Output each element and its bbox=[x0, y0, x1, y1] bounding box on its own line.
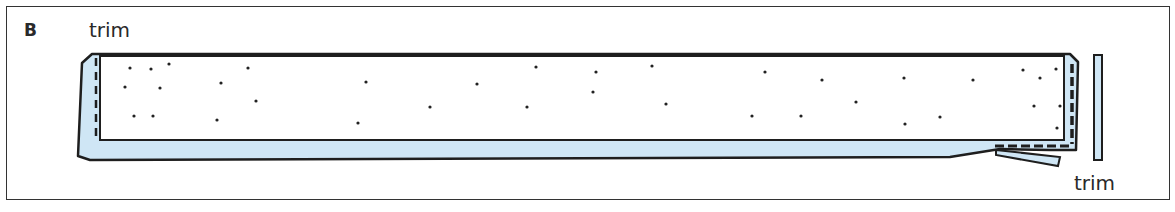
fabric-dot bbox=[167, 62, 170, 65]
fabric-dot bbox=[763, 70, 766, 73]
fabric-dot bbox=[158, 86, 161, 89]
fabric-dot bbox=[1055, 126, 1058, 129]
fabric-dot bbox=[1021, 68, 1024, 71]
fabric-dot bbox=[971, 78, 974, 81]
fabric-dot bbox=[128, 66, 131, 69]
quilt-panel bbox=[100, 56, 1064, 140]
fabric-tail bbox=[996, 150, 1060, 166]
fabric-dot bbox=[938, 115, 941, 118]
fabric-dot bbox=[151, 114, 154, 117]
fabric-dot bbox=[525, 105, 528, 108]
fabric-dot bbox=[1038, 76, 1041, 79]
fabric-dot bbox=[215, 118, 218, 121]
fabric-dot bbox=[854, 100, 857, 103]
fabric-dot bbox=[356, 121, 359, 124]
fabric-dot bbox=[1058, 104, 1061, 107]
fabric-dot bbox=[902, 76, 905, 79]
fabric-dot bbox=[1054, 67, 1057, 70]
fabric-dot bbox=[475, 82, 478, 85]
fabric-dot bbox=[1032, 104, 1035, 107]
fabric-dot bbox=[650, 64, 653, 67]
fabric-dot bbox=[534, 65, 537, 68]
fabric-dot bbox=[591, 90, 594, 93]
fabric-dot bbox=[364, 80, 367, 83]
fabric-dot bbox=[664, 102, 667, 105]
fabric-dot bbox=[149, 67, 152, 70]
fabric-dot bbox=[123, 85, 126, 88]
fabric-dot bbox=[428, 105, 431, 108]
fabric-dot bbox=[799, 114, 802, 117]
binding-diagram bbox=[0, 0, 1175, 212]
fabric-dot bbox=[246, 66, 249, 69]
fabric-dot bbox=[219, 81, 222, 84]
fabric-dot bbox=[132, 114, 135, 117]
trimmed-strip bbox=[1094, 55, 1102, 160]
fabric-dot bbox=[903, 122, 906, 125]
fabric-dot bbox=[254, 99, 257, 102]
fabric-dot bbox=[750, 114, 753, 117]
fabric-dot bbox=[594, 70, 597, 73]
fabric-dot bbox=[820, 78, 823, 81]
